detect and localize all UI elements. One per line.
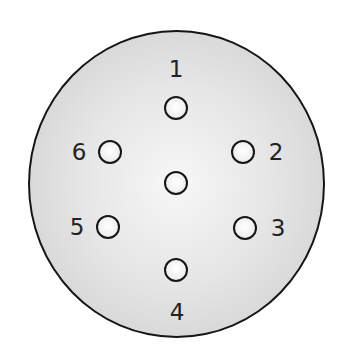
- pin-hole-2: [231, 140, 255, 164]
- pin-hole-3: [233, 216, 257, 240]
- pin-hole-1: [164, 96, 188, 120]
- pin-hole-center: [164, 171, 188, 195]
- pin-label-6: 6: [72, 141, 87, 164]
- pin-label-1: 1: [169, 58, 184, 81]
- pin-label-3: 3: [271, 217, 286, 240]
- pin-label-2: 2: [269, 141, 284, 164]
- pin-label-4: 4: [170, 301, 185, 324]
- pin-hole-5: [96, 215, 120, 239]
- pin-hole-6: [98, 140, 122, 164]
- pin-hole-4: [164, 258, 188, 282]
- pin-label-5: 5: [70, 216, 85, 239]
